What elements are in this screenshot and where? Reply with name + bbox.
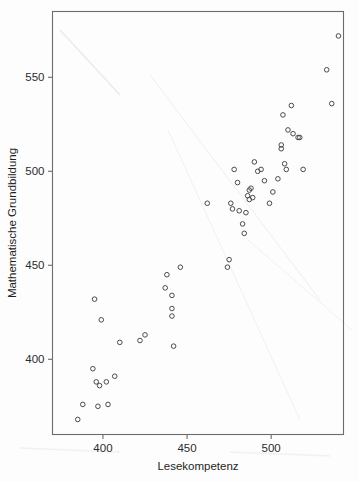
data-point <box>301 167 306 172</box>
x-axis-ticks: 400450500 <box>93 435 280 454</box>
data-point <box>75 417 80 422</box>
x-tick-label: 400 <box>93 442 112 454</box>
y-tick-label: 400 <box>25 353 44 365</box>
data-point <box>97 383 102 388</box>
data-point <box>276 177 281 182</box>
data-point <box>170 314 175 319</box>
data-point <box>92 297 97 302</box>
data-point <box>291 131 296 136</box>
data-point <box>232 167 237 172</box>
data-point <box>244 210 249 215</box>
data-point <box>138 338 143 343</box>
scatter-plot-figure: 400450500 400450500550 Lesekompetenz Mat… <box>0 0 359 482</box>
plot-canvas: 400450500 400450500550 Lesekompetenz Mat… <box>0 0 359 482</box>
data-points <box>75 34 340 422</box>
data-point <box>163 286 168 291</box>
data-point <box>106 402 111 407</box>
data-point <box>235 180 240 185</box>
data-point <box>117 340 122 345</box>
data-point <box>237 208 242 213</box>
x-tick-label: 450 <box>177 442 196 454</box>
data-point <box>336 34 341 39</box>
y-axis-title: Mathematische Grundbildung <box>6 148 18 298</box>
data-point <box>252 160 257 165</box>
data-point <box>205 201 210 206</box>
data-point <box>91 366 96 371</box>
data-point <box>240 222 245 227</box>
data-point <box>143 333 148 338</box>
data-point <box>282 161 287 166</box>
data-point <box>170 306 175 311</box>
data-point <box>284 167 289 172</box>
y-tick-label: 450 <box>25 259 44 271</box>
data-point <box>99 318 104 323</box>
data-point <box>271 190 276 195</box>
data-point <box>229 201 234 206</box>
data-point <box>262 178 267 183</box>
data-point <box>230 207 235 212</box>
data-point <box>80 402 85 407</box>
data-point <box>286 128 291 133</box>
data-point <box>289 103 294 108</box>
data-point <box>178 265 183 270</box>
x-tick-label: 500 <box>262 442 281 454</box>
data-point <box>170 293 175 298</box>
data-point <box>267 201 272 206</box>
y-tick-label: 550 <box>25 71 44 83</box>
data-point <box>242 231 247 236</box>
data-point <box>329 101 334 106</box>
y-axis-ticks: 400450500550 <box>25 71 52 365</box>
scan-artifacts <box>20 30 352 456</box>
data-point <box>96 404 101 409</box>
data-point <box>281 113 286 118</box>
y-tick-label: 500 <box>25 165 44 177</box>
data-point <box>225 265 230 270</box>
data-point <box>104 380 109 385</box>
plot-frame <box>53 12 344 435</box>
data-point <box>165 272 170 277</box>
data-point <box>112 374 117 379</box>
data-point <box>324 67 329 72</box>
x-axis-title: Lesekompetenz <box>157 460 238 472</box>
data-point <box>171 344 176 349</box>
